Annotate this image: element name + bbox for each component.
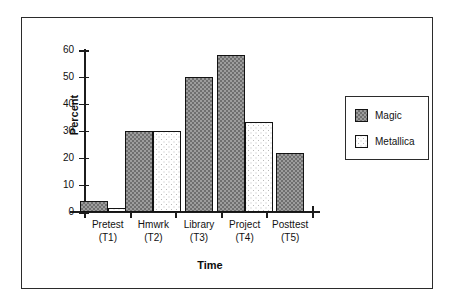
category-label-line1: Project (229, 219, 260, 230)
bar-magic-4 (217, 55, 245, 212)
y-axis-tick-label: 50 (48, 72, 74, 82)
y-axis-title: Percent (67, 85, 81, 145)
plot-area (85, 50, 313, 212)
bar-magic-2 (125, 131, 153, 212)
y-axis-tick-label: 60 (48, 45, 74, 55)
y-axis-tick-label: 0 (48, 207, 74, 217)
y-axis-tick-label: 10 (48, 180, 74, 190)
category-label-line1: Posttest (272, 219, 308, 230)
bar-magic-1 (80, 201, 108, 212)
bar-metallica-2 (153, 131, 181, 212)
legend-item-metallica: Metallica (355, 134, 414, 148)
bar-magic-5 (276, 153, 304, 212)
x-axis-title: Time (155, 259, 265, 271)
x-axis-category-label: Posttest(T5) (261, 218, 319, 244)
dark-checker-swatch (355, 109, 368, 122)
category-label-line1: Pretest (92, 219, 124, 230)
category-label-line1: Hmwrk (138, 219, 169, 230)
legend-label: Magic (375, 110, 402, 121)
category-label-line2: (T5) (261, 231, 319, 244)
legend-label: Metallica (375, 136, 414, 147)
light-dotted-swatch (355, 135, 368, 148)
y-axis-tick-label: 20 (48, 153, 74, 163)
bar-metallica-4 (245, 122, 273, 212)
category-label-line1: Library (184, 219, 215, 230)
chart-figure: 0102030405060 Percent Pretest(T1)Hmwrk(T… (0, 0, 456, 306)
legend-item-magic: Magic (355, 108, 402, 122)
chart-legend: Magic Metallica (345, 96, 429, 160)
bar-magic-3 (185, 77, 213, 212)
